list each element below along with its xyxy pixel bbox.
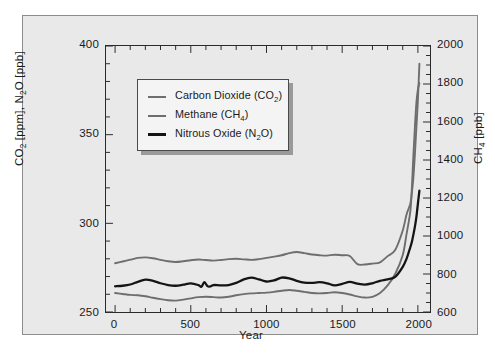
y-right-tick-1600: 1600	[437, 115, 477, 127]
chart-legend: Carbon Dioxide (CO2) Methane (CH4) Nitro…	[137, 79, 289, 151]
series-line-n2o	[115, 191, 419, 287]
legend-item-n2o: Nitrous Oxide (N2O)	[138, 125, 288, 144]
x-tick-500: 500	[165, 318, 215, 330]
figure-panel: Carbon Dioxide (CO2) Methane (CH4) Nitro…	[22, 15, 478, 335]
y-right-tick-1000: 1000	[437, 229, 477, 241]
y-axis-left-title: CO2 [ppm], N2O [ppb]	[13, 51, 28, 166]
x-tick-2000: 2000	[394, 318, 444, 330]
y-right-tick-2000: 2000	[437, 38, 477, 50]
legend-label-n2o: Nitrous Oxide (N2O)	[175, 127, 273, 142]
y-left-tick-250: 250	[47, 306, 99, 318]
legend-label-co2: Carbon Dioxide (CO2)	[175, 89, 282, 104]
y-left-tick-400: 400	[47, 38, 99, 50]
x-tick-1500: 1500	[318, 318, 368, 330]
legend-item-co2: Carbon Dioxide (CO2)	[138, 87, 288, 106]
y-left-tick-350: 350	[47, 127, 99, 139]
y-left-tick-300: 300	[47, 217, 99, 229]
y-right-tick-800: 800	[437, 268, 477, 280]
x-tick-1000: 1000	[241, 318, 291, 330]
y-right-tick-1200: 1200	[437, 191, 477, 203]
y-right-tick-1400: 1400	[437, 153, 477, 165]
y-right-tick-1800: 1800	[437, 76, 477, 88]
legend-swatch-ch4	[148, 115, 166, 117]
legend-item-ch4: Methane (CH4)	[138, 106, 288, 125]
legend-label-ch4: Methane (CH4)	[175, 108, 248, 123]
legend-swatch-n2o	[148, 133, 166, 136]
legend-swatch-co2	[148, 96, 166, 98]
x-axis-title: Year	[23, 329, 479, 341]
y-right-tick-600: 600	[437, 306, 477, 318]
x-tick-0: 0	[89, 318, 139, 330]
